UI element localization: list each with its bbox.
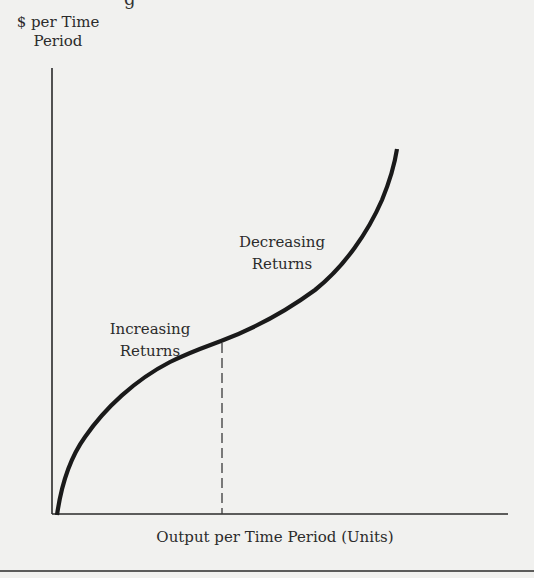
increasing-returns-label: Increasing Returns [95,318,205,362]
decreasing-returns-line2: Returns [222,253,342,275]
diagram-canvas: g $ per Time Period Increasing Returns D… [0,0,534,578]
decreasing-returns-label: Decreasing Returns [222,231,342,275]
plot-area [0,0,534,578]
x-axis-label: Output per Time Period (Units) [110,528,440,546]
increasing-returns-line2: Returns [95,340,205,362]
decreasing-returns-line1: Decreasing [222,231,342,253]
increasing-returns-line1: Increasing [95,318,205,340]
